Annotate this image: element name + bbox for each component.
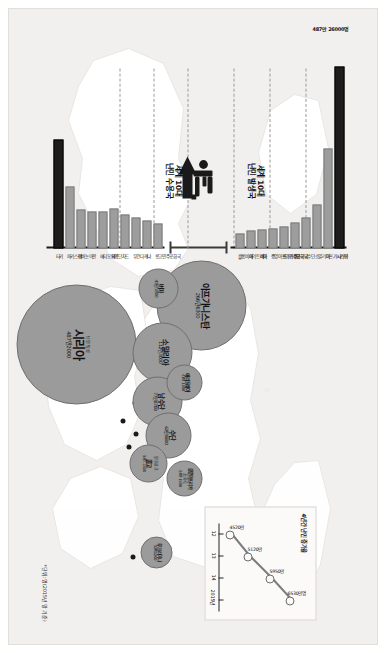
bubble-burma-value: 45만1800 [153, 279, 157, 297]
infographic-page: 시리아 아프가니스탄 소말리아 남수단 수단 콩고민주공화국 중앙아프리카공화국… [0, 0, 386, 653]
bubble-congo: 민주콩고 콩고 54만1500 [129, 444, 167, 482]
bubble-congo-value: 54만1500 [140, 454, 144, 471]
bubble-sudan-value: 62만8800 [162, 426, 167, 444]
map-marker-dot [120, 418, 125, 423]
bubble-eritrea: 에리트레아 41만1300 [166, 364, 202, 400]
bubble-burma: 버마 45만1800 [138, 268, 178, 308]
footnote: *단위: 명(2015년 말 기준) [41, 564, 48, 621]
bubble-central-african-republic: 중앙아프리카 공화국 54만1500 [166, 460, 202, 496]
map-marker-dot [126, 444, 131, 449]
bubble-syria-value: 487만2000 [64, 331, 70, 358]
map-marker-dot [133, 431, 138, 436]
bubble-south-sudan-value: 77만8700 [151, 392, 156, 411]
bubble-car-sub: 공화국 [182, 472, 186, 483]
data-label-0: 4520만 [229, 523, 244, 529]
bubble-eritrea-value: 41만1300 [179, 374, 183, 391]
bubble-ukraine-value: 32만1200 [152, 544, 156, 559]
data-point-2 [266, 574, 275, 583]
bubble-congo-sub: 민주콩고 [151, 455, 155, 470]
scanned-sheet: 시리아 아프가니스탄 소말리아 남수단 수단 콩고민주공화국 중앙아프리카공화국… [8, 8, 378, 645]
data-label-3: 6530만명 [287, 589, 306, 595]
data-label-1: 5120만 [247, 545, 262, 551]
bubble-map: 난민 발생 시리아 487만2000 아프가니스탄 266만6300 소말리아 … [8, 8, 378, 645]
data-point-3 [286, 596, 295, 605]
data-point-0 [226, 530, 235, 539]
data-point-1 [244, 552, 253, 561]
bubble-syria-name: 시리아 [70, 328, 83, 360]
bubble-somalia-value: 112만3000 [156, 341, 161, 363]
bubble-syria: 난민 발생 시리아 487만2000 [16, 284, 136, 404]
bubble-afghanistan-value: 266만6300 [194, 292, 199, 318]
map-marker-dot [130, 554, 135, 559]
rotated-content: 시리아 아프가니스탄 소말리아 남수단 수단 콩고민주공화국 중앙아프리카공화국… [8, 8, 378, 645]
bubble-ukraine: 우크라이나 32만1200 [140, 536, 172, 568]
data-label-2: 5950만 [269, 567, 284, 573]
bubble-car-value: 54만1500 [177, 470, 181, 487]
growth-line-chart: 4년간 난민 증가율 12 13 14 2015년 4 [204, 506, 316, 620]
